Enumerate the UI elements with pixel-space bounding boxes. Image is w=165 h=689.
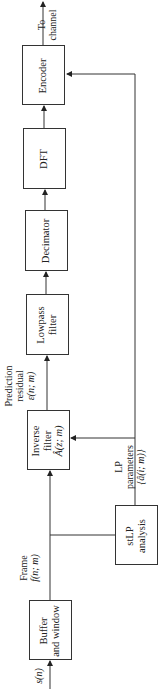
frame-symbol: f(n; m) <box>29 546 40 590</box>
figure-caption <box>145 175 155 295</box>
decimator-block: Decimator <box>25 210 68 271</box>
lp-line1: LP <box>113 439 124 495</box>
lp-parameters-label: LP parameters {â(i; m)} <box>113 439 149 495</box>
frame-label: Frame f(n; m) <box>18 546 44 590</box>
dft-block: DFT <box>23 128 66 189</box>
lowpass-filter-block: Lowpass filter <box>26 294 69 355</box>
stlp-analysis-block: stLP analysis <box>115 505 158 565</box>
encoder-label: Encoder <box>37 46 51 106</box>
decimator-label: Decimator <box>40 211 54 271</box>
inverse-block-label: Inverse filter Â(z; m) <box>30 411 68 471</box>
buffer-line2: and window <box>50 601 62 661</box>
inverse-filter-block: Inverse filter Â(z; m) <box>27 410 70 470</box>
inverse-line2: filter <box>42 411 54 471</box>
buffer-and-window-block: Buffer and window <box>29 600 72 660</box>
residual-line1: Prediction <box>3 357 14 415</box>
residual-line2: residual <box>14 357 25 415</box>
lp-line2: parameters <box>124 439 135 495</box>
inverse-transfer-function: Â(z; m) <box>53 411 65 471</box>
residual-symbol: ε(n; m) <box>25 357 36 415</box>
input-signal-label: s(n) <box>33 661 45 689</box>
encoder-block: Encoder <box>22 45 65 105</box>
lowpass-block-label: Lowpass filter <box>35 295 61 355</box>
stlp-line2: analysis <box>136 506 148 566</box>
stlp-line1: stLP <box>124 506 136 566</box>
lp-symbol: {â(i; m)} <box>135 439 146 495</box>
inverse-line1: Inverse <box>30 411 42 471</box>
lowpass-line1: Lowpass <box>35 295 47 355</box>
output-line2: channel <box>47 7 58 43</box>
to-channel-label: To channel <box>36 7 62 43</box>
dft-label: DFT <box>38 129 52 189</box>
lowpass-line2: filter <box>47 295 59 355</box>
stlp-block-label: stLP analysis <box>124 506 150 566</box>
output-line1: To <box>36 7 47 43</box>
prediction-residual-label: Prediction residual ε(n; m) <box>3 357 39 415</box>
frame-text: Frame <box>18 546 29 590</box>
buffer-line1: Buffer <box>38 601 50 661</box>
buffer-block-label: Buffer and window <box>38 601 64 661</box>
